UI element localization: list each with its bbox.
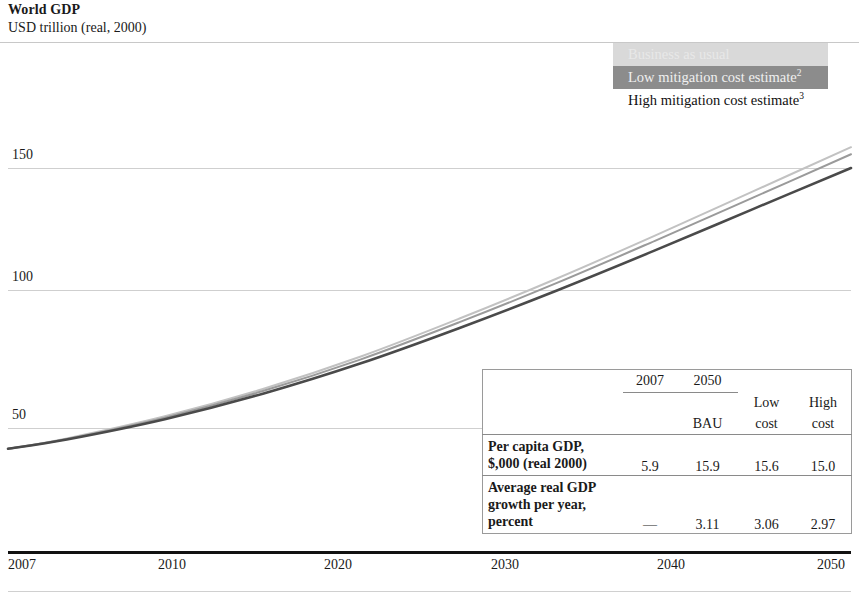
table-header-row-2: Low High — [483, 393, 852, 414]
table-header-row-3: BAU cost cost — [483, 413, 852, 435]
table-row-label-line1: Average real GDP — [488, 479, 623, 496]
x-tick-label-2030: 2030 — [491, 557, 519, 573]
table-row-label-line1: Per capita GDP, — [488, 438, 623, 455]
table-header-blank-cell-2 — [483, 393, 624, 414]
table-row-label-line2: growth per year, — [488, 496, 623, 513]
chart-legend: Business as usual Low mitigation cost es… — [613, 43, 828, 112]
legend-item-high-mitigation-cost[interactable]: High mitigation cost estimate3 — [613, 89, 828, 112]
x-tick-label-2010: 2010 — [158, 557, 186, 573]
table-cell-growth-high: 2.97 — [795, 476, 852, 534]
table-header-high-line2: cost — [795, 413, 852, 435]
legend-label-low-mitigation-cost: Low mitigation cost estimate — [628, 69, 797, 85]
table-header-spacer-high — [795, 370, 852, 393]
table-row-label-line2: $,000 (real 2000) — [488, 455, 623, 472]
table-row-label-per-capita-gdp: Per capita GDP, $,000 (real 2000) — [483, 435, 624, 476]
legend-label-high-mitigation-cost: High mitigation cost estimate — [628, 92, 799, 108]
table-header-blank-2007-b — [623, 413, 677, 435]
x-tick-label-2007: 2007 — [8, 557, 36, 573]
footer-divider — [8, 591, 851, 592]
table-row: Per capita GDP, $,000 (real 2000) 5.9 15… — [483, 435, 852, 476]
table-header-row-1: 2007 2050 — [483, 370, 852, 393]
table-cell-per-capita-low: 15.6 — [738, 435, 795, 476]
table-row-label-line3: percent — [488, 513, 623, 530]
table-cell-growth-low: 3.06 — [738, 476, 795, 534]
summary-table: 2007 2050 Low High BAU cost cost Per cap… — [482, 369, 852, 534]
table-header-2050: 2050 — [677, 370, 738, 393]
table-cell-per-capita-high: 15.0 — [795, 435, 852, 476]
table-row: Average real GDP growth per year, percen… — [483, 476, 852, 534]
table-header-low-line2: cost — [738, 413, 795, 435]
legend-item-business-as-usual[interactable]: Business as usual — [613, 43, 828, 66]
table-header-blank-bau — [677, 393, 738, 414]
x-axis-line — [8, 551, 851, 554]
table-cell-growth-2007: — — [623, 476, 677, 534]
table-header-high-line1: High — [795, 393, 852, 414]
table-cell-growth-bau: 3.11 — [677, 476, 738, 534]
table-header-blank-cell — [483, 370, 624, 393]
legend-footnote-marker-high: 3 — [799, 91, 804, 101]
x-tick-label-2020: 2020 — [324, 557, 352, 573]
table-header-blank-cell-3 — [483, 413, 624, 435]
table-header-spacer-low — [738, 370, 795, 393]
x-tick-label-2040: 2040 — [657, 557, 685, 573]
table-row-label-avg-growth: Average real GDP growth per year, percen… — [483, 476, 624, 534]
legend-item-low-mitigation-cost[interactable]: Low mitigation cost estimate2 — [613, 66, 828, 89]
table-header-blank-2007 — [623, 393, 677, 414]
table-header-low-line1: Low — [738, 393, 795, 414]
table-header-bau: BAU — [677, 413, 738, 435]
legend-footnote-marker-low: 2 — [797, 68, 802, 78]
x-tick-label-2050: 2050 — [817, 557, 845, 573]
page-title: World GDP — [8, 2, 80, 18]
legend-label-business-as-usual: Business as usual — [628, 46, 730, 62]
table-cell-per-capita-bau: 15.9 — [677, 435, 738, 476]
chart-subtitle: USD trillion (real, 2000) — [8, 20, 146, 36]
table-cell-per-capita-2007: 5.9 — [623, 435, 677, 476]
table-header-2007: 2007 — [623, 370, 677, 393]
